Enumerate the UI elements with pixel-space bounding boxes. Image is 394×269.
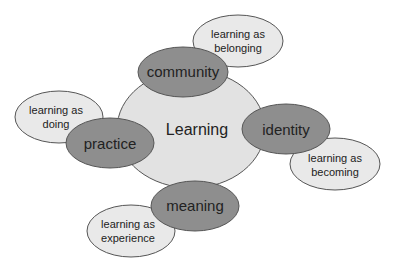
outcome-label-line1: learning as [308, 152, 362, 164]
component-node-community: community [138, 47, 228, 97]
outcome-label-line1: learning as [211, 28, 265, 40]
component-node-meaning: meaning [151, 181, 239, 231]
center-label: Learning [166, 121, 228, 138]
component-node-practice: practice [66, 118, 154, 168]
component-label: meaning [166, 197, 224, 214]
component-node-identity: identity [242, 104, 330, 154]
outcome-label-line2: belonging [214, 42, 262, 54]
outcome-label-line2: doing [43, 118, 70, 130]
component-label: practice [84, 135, 137, 152]
outcome-label-line1: learning as [29, 104, 83, 116]
component-label: identity [262, 121, 310, 138]
outcome-label-line1: learning as [101, 218, 155, 230]
learning-diagram: Learning learning as belonging community… [0, 0, 394, 269]
outcome-label-line2: experience [101, 232, 155, 244]
outcome-label-line2: becoming [311, 166, 359, 178]
component-label: community [147, 63, 220, 80]
